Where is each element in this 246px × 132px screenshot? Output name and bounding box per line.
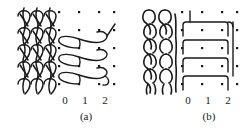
yarn-path-crossed (59, 24, 115, 85)
axis-tick-a-1: 1 (75, 94, 95, 107)
axis-tick-b-2: 2 (218, 94, 238, 107)
notation-grid-b (178, 6, 240, 94)
axis-tick-labels-b: 0 1 2 (178, 94, 240, 110)
figure-panel-a: 0 1 2 (a) (0, 0, 123, 132)
figure-panel-b: 0 1 2 (b) (123, 0, 246, 132)
knitted-fabric-swatch-a (14, 6, 60, 94)
yarn-path-rectangular (183, 11, 233, 90)
knitted-fabric-swatch-b (137, 6, 183, 94)
subfigure-caption-a: (a) (55, 110, 117, 123)
subfigure-caption-b: (b) (178, 110, 240, 123)
axis-tick-b-0: 0 (178, 94, 198, 107)
figure-root: 0 1 2 (a) (0, 0, 246, 132)
axis-tick-labels-a: 0 1 2 (55, 94, 117, 110)
axis-tick-a-0: 0 (55, 94, 75, 107)
axis-tick-b-1: 1 (198, 94, 218, 107)
axis-tick-a-2: 2 (95, 94, 115, 107)
notation-grid-a (55, 6, 117, 94)
